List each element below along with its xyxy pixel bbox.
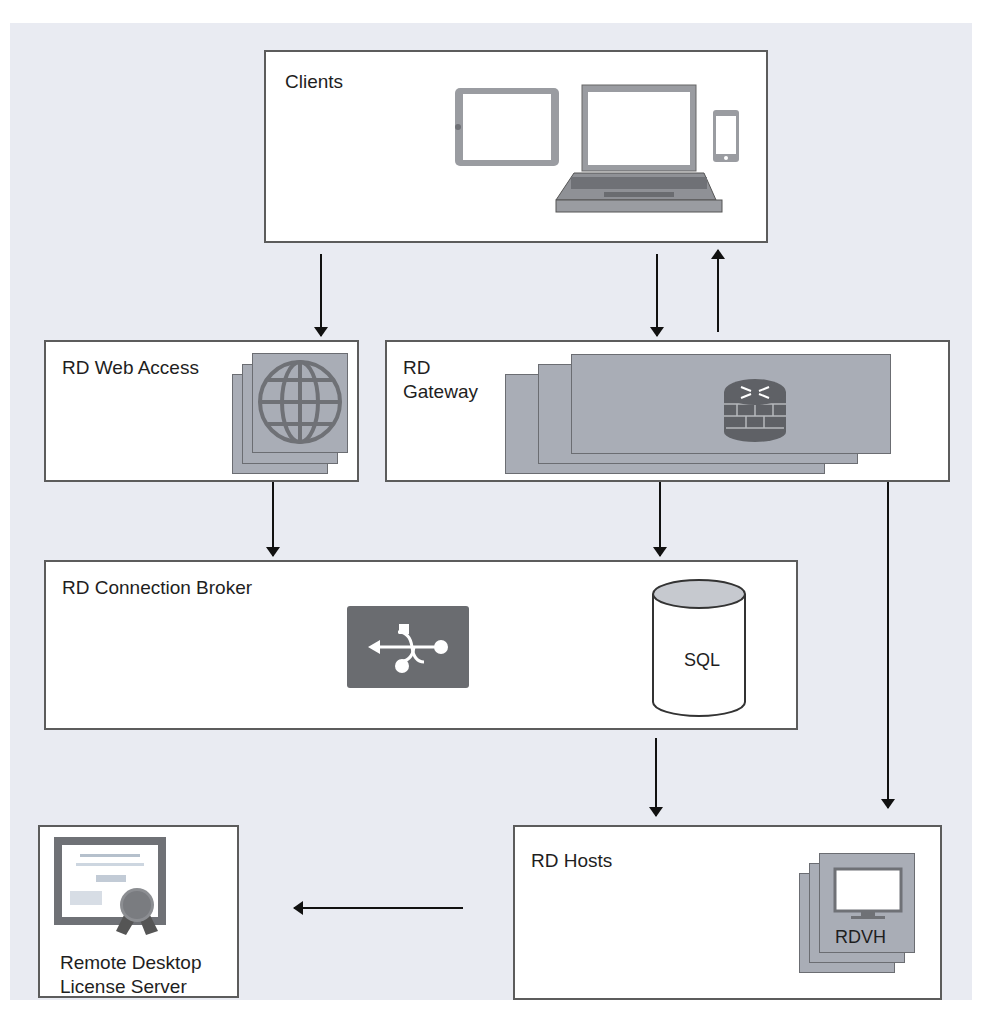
rd-web-access-box: RD Web Access (44, 340, 359, 482)
license-server-box: Remote Desktop License Server (38, 825, 239, 998)
sql-database-icon (46, 562, 800, 732)
rdvh-label: RDVH (835, 925, 886, 949)
router-firewall-icon (387, 342, 952, 484)
rd-connection-broker-box: RD Connection Broker SQL (44, 560, 798, 730)
tablet-icon (455, 88, 559, 166)
laptop-icon (556, 85, 722, 212)
clients-box: Clients (264, 50, 768, 243)
monitor-icon (515, 827, 944, 1002)
rd-hosts-box: RD Hosts RDVH (513, 825, 942, 1000)
globe-icon (46, 342, 361, 484)
sql-label: SQL (684, 648, 720, 672)
rd-gateway-box: RD Gateway (385, 340, 950, 482)
license-label-line2: License Server (60, 975, 187, 999)
phone-icon (713, 110, 739, 162)
license-label-line1: Remote Desktop (60, 951, 202, 975)
client-devices-icon (266, 52, 770, 245)
